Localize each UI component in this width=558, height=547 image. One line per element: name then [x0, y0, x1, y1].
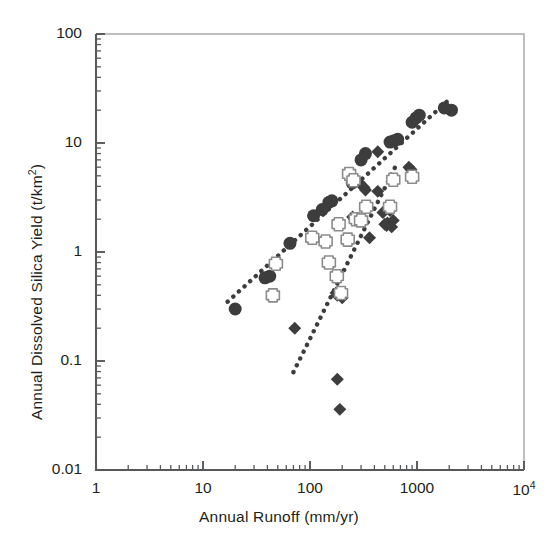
x-tick-label-0: 1: [56, 479, 136, 497]
x-tick-label-1: 10: [163, 479, 243, 497]
point-filled-circles-18: [413, 109, 426, 122]
y-tick-label-1: 10: [0, 133, 82, 151]
y-axis-label-exponent: 2: [26, 169, 38, 175]
point-hollow-crosses-4: [322, 256, 335, 269]
point-filled-circles-2: [263, 270, 276, 283]
point-hollow-crosses-3: [319, 235, 332, 248]
frame-closure: [96, 34, 524, 470]
axis-lines: [96, 34, 524, 470]
axis-ticks: [96, 34, 524, 470]
point-hollow-crosses-7: [335, 287, 348, 300]
point-hollow-crosses-15: [387, 173, 400, 186]
point-hollow-crosses-10: [347, 174, 360, 187]
point-filled-diamonds-4: [331, 373, 344, 386]
y-tick-label-3: 0.1: [0, 351, 82, 369]
y-tick-label-2: 1: [0, 242, 82, 260]
point-hollow-crosses-5: [330, 270, 343, 283]
point-filled-diamonds-0: [288, 322, 301, 335]
y-tick-label-0: 100: [0, 24, 82, 42]
point-hollow-crosses-16: [406, 170, 419, 183]
data-points: [229, 101, 458, 415]
point-filled-circles-0: [229, 302, 242, 315]
x-tick-label-3: 1000: [377, 479, 457, 497]
point-hollow-crosses-0: [266, 289, 279, 302]
y-axis-label: Annual Dissolved Silica Yield (t/km2): [26, 164, 46, 420]
point-filled-diamonds-10: [363, 231, 376, 244]
point-filled-circles-7: [325, 194, 338, 207]
point-hollow-crosses-6: [332, 218, 345, 231]
point-filled-diamonds-23: [371, 145, 384, 158]
x-tick-exponent: 4: [530, 479, 536, 491]
point-filled-circles-15: [391, 133, 404, 146]
silica-yield-scatter-chart: [0, 0, 558, 547]
point-hollow-crosses-1: [269, 257, 282, 270]
point-hollow-crosses-8: [341, 233, 354, 246]
y-tick-label-4: 0.01: [0, 460, 82, 478]
trend-lines: [228, 102, 447, 373]
x-tick-label-2: 100: [270, 479, 350, 497]
point-hollow-crosses-13: [360, 200, 373, 213]
point-hollow-crosses-14: [384, 200, 397, 213]
y-axis-label-text: Annual Dissolved Silica Yield (t/km: [28, 175, 45, 420]
point-filled-circles-20: [445, 104, 458, 117]
point-filled-diamonds-5: [333, 403, 346, 416]
plot-frame: [96, 34, 524, 470]
point-filled-circles-3: [283, 237, 296, 250]
x-axis-label: Annual Runoff (mm/yr): [0, 508, 558, 526]
point-filled-circles-12: [359, 147, 372, 160]
point-hollow-crosses-2: [306, 231, 319, 244]
point-hollow-crosses-12: [355, 214, 368, 227]
x-tick-label-4: 104: [484, 479, 558, 499]
y-axis-label-tail: ): [28, 164, 45, 169]
